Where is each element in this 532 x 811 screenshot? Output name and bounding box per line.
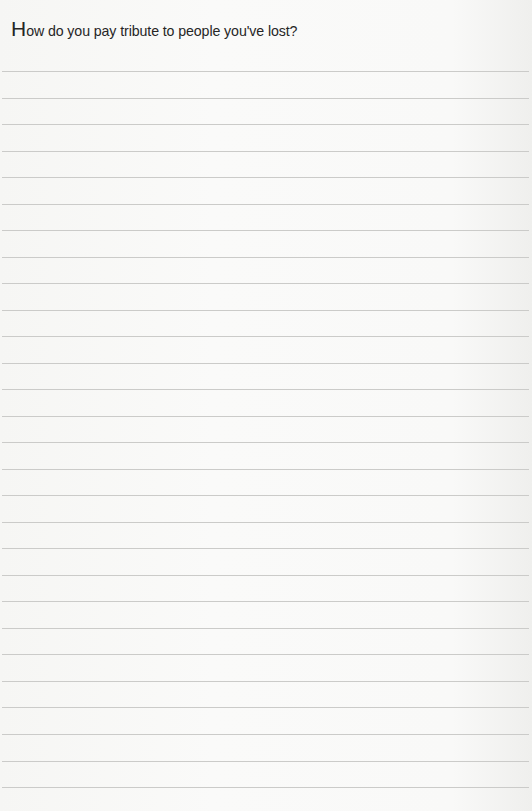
- ruled-line: [2, 151, 529, 152]
- ruled-line: [2, 681, 529, 682]
- ruled-line: [2, 124, 529, 125]
- ruled-line: [2, 628, 529, 629]
- ruled-line: [2, 257, 529, 258]
- ruled-line: [2, 442, 529, 443]
- ruled-line: [2, 310, 529, 311]
- ruled-line: [2, 389, 529, 390]
- ruled-line: [2, 469, 529, 470]
- ruled-line: [2, 416, 529, 417]
- ruled-line: [2, 575, 529, 576]
- ruled-line: [2, 230, 529, 231]
- ruled-line: [2, 283, 529, 284]
- ruled-line: [2, 707, 529, 708]
- writing-lines[interactable]: [0, 0, 532, 811]
- ruled-line: [2, 204, 529, 205]
- ruled-line: [2, 177, 529, 178]
- ruled-line: [2, 761, 529, 762]
- ruled-line: [2, 98, 529, 99]
- ruled-line: [2, 495, 529, 496]
- ruled-line: [2, 654, 529, 655]
- ruled-line: [2, 601, 529, 602]
- ruled-line: [2, 787, 529, 788]
- ruled-line: [2, 71, 529, 72]
- journal-page: How do you pay tribute to people you've …: [0, 0, 532, 811]
- ruled-line: [2, 522, 529, 523]
- ruled-line: [2, 734, 529, 735]
- ruled-line: [2, 548, 529, 549]
- ruled-line: [2, 336, 529, 337]
- ruled-line: [2, 363, 529, 364]
